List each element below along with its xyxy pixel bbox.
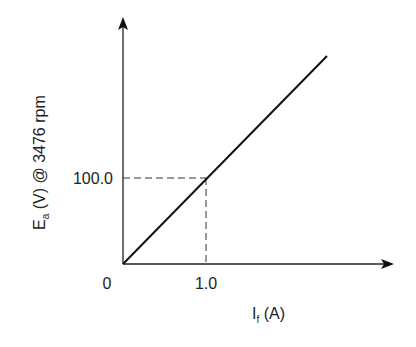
origin-label: 0 <box>103 275 112 292</box>
x-axis-label: If (A) <box>252 305 285 325</box>
data-line <box>123 56 327 264</box>
y-tick-label: 100.0 <box>73 170 113 187</box>
x-tick-label: 1.0 <box>195 275 217 292</box>
y-axis-label: Ea (V) @ 3476 rpm <box>31 95 51 230</box>
chart: 100.0 0 1.0 If (A) Ea (V) @ 3476 rpm <box>0 0 416 347</box>
